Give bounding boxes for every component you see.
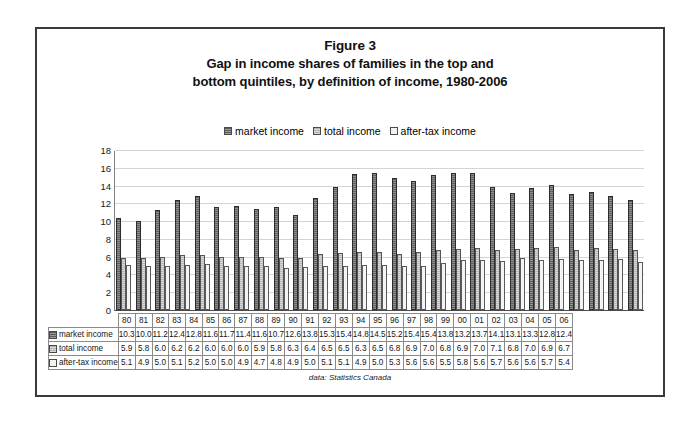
y-axis-tick-label: 12 xyxy=(100,200,111,210)
bar-group xyxy=(510,151,525,310)
bar-after xyxy=(480,260,485,310)
legend-item-label: after-tax income xyxy=(401,125,476,137)
bar-group xyxy=(234,151,249,310)
legend-item-label: total income xyxy=(324,125,381,137)
bar-after xyxy=(402,266,407,310)
table-cell-value: 7.0 xyxy=(522,342,539,356)
table-cell-value: 6.2 xyxy=(168,342,185,356)
table-cell-value: 12.6 xyxy=(285,328,302,342)
table-cell-value: 5.0 xyxy=(152,356,168,370)
table-cell-value: 5.6 xyxy=(403,356,420,370)
table-header-year: 82 xyxy=(152,314,168,328)
table-cell-value: 4.9 xyxy=(352,356,369,370)
table-header-year: 93 xyxy=(335,314,352,328)
plot-area xyxy=(114,151,644,311)
table-cell-value: 6.3 xyxy=(352,342,369,356)
figure-title-line-2: bottom quintiles, by definition of incom… xyxy=(37,73,663,91)
table-cell-value: 5.1 xyxy=(335,356,352,370)
table-header-year: 88 xyxy=(251,314,267,328)
table-row-label: total income xyxy=(49,342,119,356)
bar-group xyxy=(392,151,407,310)
bar-after xyxy=(500,261,505,310)
table-cell-value: 10.3 xyxy=(118,328,135,342)
table-cell-value: 6.5 xyxy=(335,342,352,356)
bar-group xyxy=(470,151,485,310)
table-cell-value: 13.8 xyxy=(301,328,318,342)
y-axis-tick-label: 2 xyxy=(106,288,111,298)
table-cell-value: 12.8 xyxy=(539,328,556,342)
bar-after xyxy=(579,260,584,310)
bar-after xyxy=(244,266,249,310)
table-cell-value: 6.0 xyxy=(235,342,251,356)
table-cell-value: 6.5 xyxy=(318,342,335,356)
table-header-year: 81 xyxy=(135,314,152,328)
bar-after xyxy=(264,266,269,310)
bar-after xyxy=(362,265,367,310)
table-cell-value: 11.7 xyxy=(219,328,235,342)
table-cell-value: 11.6 xyxy=(202,328,218,342)
bar-groups xyxy=(115,151,644,310)
y-axis-tick-label: 14 xyxy=(100,182,111,192)
table-cell-value: 5.8 xyxy=(454,356,471,370)
y-axis-tick-label: 6 xyxy=(106,253,111,263)
table-header-year: 00 xyxy=(454,314,471,328)
table-cell-value: 7.1 xyxy=(488,342,505,356)
table-cell-value: 11.2 xyxy=(152,328,168,342)
bar-after xyxy=(461,260,466,310)
bar-group xyxy=(451,151,466,310)
bar-group xyxy=(411,151,426,310)
bar-group xyxy=(352,151,367,310)
table-cell-value: 5.7 xyxy=(539,356,556,370)
table-cell-value: 5.0 xyxy=(202,356,218,370)
bar-after xyxy=(559,259,564,310)
table-cell-value: 5.0 xyxy=(301,356,318,370)
table-cell-value: 15.4 xyxy=(403,328,420,342)
legend-item-0[interactable]: market income xyxy=(224,125,304,137)
table-cell-value: 6.8 xyxy=(505,342,522,356)
table-cell-value: 15.4 xyxy=(335,328,352,342)
table-cell-value: 5.8 xyxy=(135,342,152,356)
y-axis-tick-label: 18 xyxy=(100,146,111,156)
figure-title-block: Figure 3 Gap in income shares of familie… xyxy=(37,37,663,91)
legend-item-2[interactable]: after-tax income xyxy=(390,125,476,137)
bar-after xyxy=(520,258,525,310)
bar-after xyxy=(126,265,131,310)
bar-group xyxy=(175,151,190,310)
table-cell-value: 12.8 xyxy=(185,328,202,342)
table-row-label-text: market income xyxy=(59,330,113,339)
legend-item-1[interactable]: total income xyxy=(313,125,381,137)
table-cell-value: 15.3 xyxy=(318,328,335,342)
table-row: total income5.95.86.06.26.26.06.06.05.95… xyxy=(49,342,573,356)
plot-wrapper: 024681012141618 xyxy=(37,151,663,313)
table-header-year: 86 xyxy=(219,314,235,328)
after-tax-income-swatch-icon xyxy=(390,127,398,135)
table-cell-value: 7.0 xyxy=(471,342,488,356)
table-header-year: 96 xyxy=(386,314,403,328)
table-cell-value: 5.0 xyxy=(369,356,386,370)
bar-after xyxy=(441,263,446,310)
bar-group xyxy=(333,151,348,310)
table-header-year: 83 xyxy=(168,314,185,328)
bar-group xyxy=(431,151,446,310)
bar-after xyxy=(343,266,348,310)
table-cell-value: 5.8 xyxy=(268,342,285,356)
bar-after xyxy=(146,266,151,310)
table-header-year: 91 xyxy=(301,314,318,328)
table-corner-cell xyxy=(49,314,119,328)
table-cell-value: 11.6 xyxy=(251,328,267,342)
table-header-year: 98 xyxy=(420,314,437,328)
bar-after xyxy=(165,266,170,310)
figure-title-line-1: Gap in income shares of families in the … xyxy=(37,55,663,73)
figure-number-label: Figure 3 xyxy=(37,37,663,55)
bar-after xyxy=(323,266,328,310)
bar-after xyxy=(224,266,229,310)
table-cell-value: 5.0 xyxy=(219,356,235,370)
table-row-years: 8081828384858687888990919293949596979899… xyxy=(49,314,573,328)
bar-after xyxy=(421,266,426,310)
table-cell-value: 6.9 xyxy=(539,342,556,356)
table-cell-value: 6.5 xyxy=(369,342,386,356)
table-row-label: market income xyxy=(49,328,119,342)
table-cell-value: 4.9 xyxy=(135,356,152,370)
table-cell-value: 13.1 xyxy=(505,328,522,342)
table-cell-value: 5.4 xyxy=(556,356,573,370)
